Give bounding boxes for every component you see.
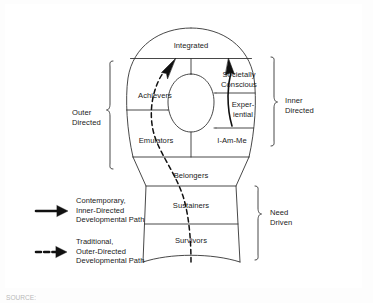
- legend-contemporary-line3: Developmental Path: [76, 215, 144, 225]
- segment-label-integrated: Integrated: [174, 41, 209, 50]
- group-label-need-driven-line1: Need: [270, 208, 288, 217]
- legend-contemporary-line2: Inner-Directed: [76, 206, 124, 216]
- legend-solid-arrowhead: [57, 206, 68, 217]
- segment-label-achievers: Achievers: [138, 91, 172, 100]
- brace-need-driven: [255, 186, 262, 260]
- group-label-outer-directed-line2: Directed: [72, 118, 101, 127]
- outline-right-lower: [236, 157, 249, 262]
- segment-label-survivors: Survivors: [175, 236, 207, 245]
- brace-outer-directed: [107, 61, 114, 169]
- segment-label-emulators: Emulators: [139, 136, 174, 145]
- segment-label-i-am-me: I-Am-Me: [217, 136, 246, 145]
- dashed-path-arrowhead: [162, 59, 176, 79]
- outline-left-lower: [133, 157, 146, 262]
- group-label-need-driven-line2: Driven: [270, 218, 292, 227]
- group-label-outer-directed-line1: Outer: [72, 108, 91, 117]
- vals-diagram-page: Integrated Achievers Societally Consciou…: [0, 0, 373, 303]
- legend-traditional-line2: Outer-Directed: [76, 247, 126, 257]
- brace-inner-directed: [271, 57, 278, 146]
- legend-dashed-arrowhead: [56, 247, 67, 258]
- segment-label-experiential-line2: iential: [233, 110, 253, 119]
- group-label-inner-directed-line2: Directed: [285, 106, 314, 115]
- source-note: SOURCE:: [6, 294, 36, 302]
- central-oval: [168, 74, 214, 132]
- segment-label-experiential-line1: Exper-: [232, 100, 255, 109]
- segment-label-belongers: Belongers: [174, 171, 209, 180]
- legend-contemporary-line1: Contemporary,: [76, 196, 126, 206]
- segment-label-societally-conscious-line2: Conscious: [221, 80, 257, 89]
- segment-label-societally-conscious-line1: Societally: [223, 70, 256, 79]
- segment-label-sustainers: Sustainers: [173, 201, 209, 210]
- legend-traditional-line3: Developmental Path: [76, 256, 144, 266]
- group-label-inner-directed-line1: Inner: [285, 96, 303, 105]
- legend-traditional-line1: Traditional,: [76, 237, 113, 247]
